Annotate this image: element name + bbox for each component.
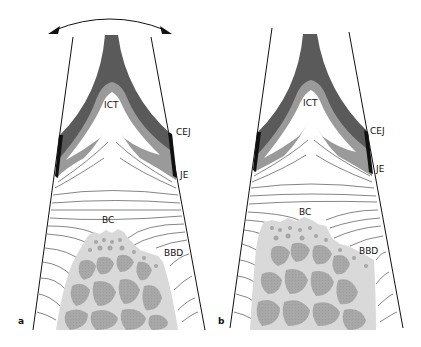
label-bbd: BBD — [164, 248, 183, 258]
label-je: JE — [375, 164, 385, 174]
panel-b: ICT CEJ JE BC BBD b — [218, 28, 403, 330]
label-cej: CEJ — [370, 126, 385, 136]
label-bc: BC — [102, 215, 114, 225]
label-je: JE — [179, 170, 189, 180]
panel-label-a: a — [18, 316, 24, 326]
label-ict: ICT — [104, 100, 119, 110]
rotation-arrow-icon — [48, 19, 172, 34]
label-ict: ICT — [303, 98, 318, 108]
panel-a: ICT CEJ JE BC BBD a — [18, 19, 205, 330]
label-bbd: BBD — [359, 246, 378, 256]
label-bc: BC — [299, 207, 311, 217]
figure-canvas: ICT CEJ JE BC BBD a — [0, 0, 421, 347]
label-cej: CEJ — [176, 127, 191, 137]
panel-label-b: b — [218, 316, 225, 326]
